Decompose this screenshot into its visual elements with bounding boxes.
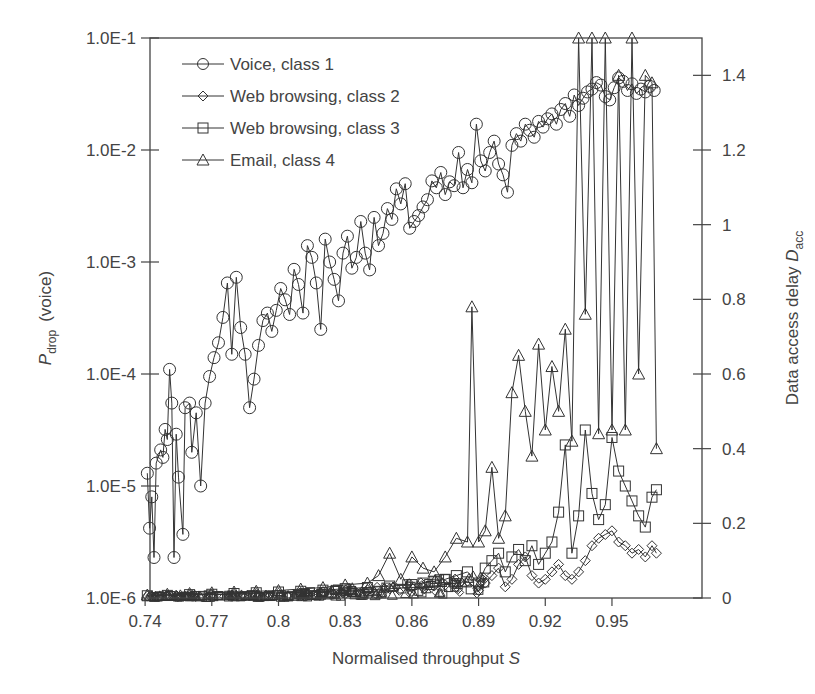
y-right-tick-label: 0.4	[722, 440, 746, 459]
y-right-title-sub: acc	[792, 231, 806, 250]
x-axis-title: Normalised throughput S	[332, 649, 521, 668]
dual-axis-chart: 0.740.770.80.830.860.890.920.95 1.0E-11.…	[0, 0, 815, 694]
series-layer	[141, 32, 662, 601]
x-tick-label: 0.89	[462, 612, 495, 631]
y-left-title-main: P	[36, 353, 55, 365]
legend-label: Web browsing, class 2	[230, 87, 400, 106]
triangle-marker-icon	[450, 532, 462, 543]
series-line	[147, 38, 656, 595]
y-left-axis-title: Pdrop(voice)	[36, 271, 59, 365]
x-tick-label: 0.74	[129, 612, 162, 631]
legend-item: Voice, class 1	[182, 55, 334, 74]
y-right-tick-label: 1.4	[722, 66, 746, 85]
legend-label: Voice, class 1	[230, 55, 334, 74]
legend: Voice, class 1Web browsing, class 2Web b…	[182, 55, 400, 170]
series-line	[147, 430, 656, 596]
y-left-tick-label: 1.0E-1	[86, 29, 136, 48]
y-right-tick-label: 0	[722, 589, 731, 608]
series-line	[147, 78, 654, 558]
x-tick-label: 0.86	[395, 612, 428, 631]
x-tick-label: 0.92	[529, 612, 562, 631]
x-tick-label: 0.8	[267, 612, 291, 631]
x-tick-label: 0.77	[195, 612, 228, 631]
legend-label: Web browsing, class 3	[230, 119, 400, 138]
y-left-tick-label: 1.0E-6	[86, 589, 136, 608]
x-axis: 0.740.770.80.830.860.890.920.95	[129, 598, 629, 631]
y-left-title-suffix: (voice)	[36, 271, 55, 322]
x-axis-title-main: Normalised throughput	[332, 649, 509, 668]
y-right-tick-label: 1	[722, 216, 731, 235]
x-axis-title-var: S	[509, 649, 521, 668]
x-tick-label: 0.83	[329, 612, 362, 631]
y-right-title-main: Data access delay	[783, 262, 802, 406]
y-right-tick-label: 0.2	[722, 514, 746, 533]
x-tick-label: 0.95	[595, 612, 628, 631]
series-line	[147, 531, 656, 596]
y-right-title-var: D	[783, 249, 802, 261]
y-right-tick-label: 1.2	[722, 141, 746, 160]
y-right-axis-title: Data access delay Dacc	[783, 231, 806, 406]
y-left-tick-label: 1.0E-2	[86, 141, 136, 160]
y-left-axis: 1.0E-11.0E-21.0E-31.0E-41.0E-51.0E-6	[86, 29, 159, 608]
series-email-class-4	[141, 32, 662, 600]
legend-item: Email, class 4	[182, 151, 335, 170]
y-right-tick-label: 0.6	[722, 365, 746, 384]
series-voice-class-1	[141, 72, 660, 564]
y-right-tick-label: 0.8	[722, 290, 746, 309]
y-left-tick-label: 1.0E-3	[86, 253, 136, 272]
legend-item: Web browsing, class 3	[182, 119, 400, 138]
y-right-axis: 1.41.210.80.60.40.20	[693, 66, 746, 608]
y-left-tick-label: 1.0E-4	[86, 365, 136, 384]
legend-label: Email, class 4	[230, 151, 335, 170]
legend-item: Web browsing, class 2	[182, 87, 400, 106]
y-left-tick-label: 1.0E-5	[86, 477, 136, 496]
y-left-title-sub: drop	[45, 330, 59, 354]
